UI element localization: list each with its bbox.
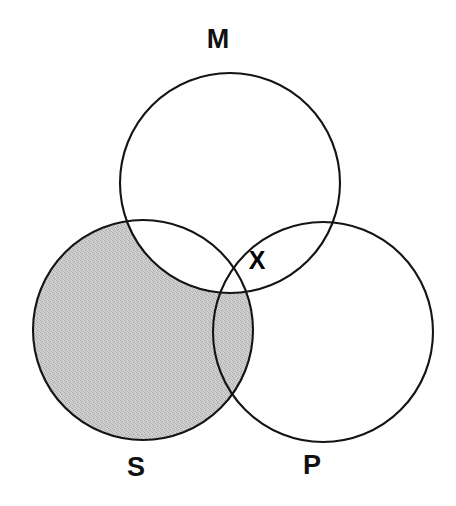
circle-label-m: M <box>207 24 230 54</box>
x-mark: X <box>249 246 266 274</box>
circle-label-p: P <box>303 450 321 480</box>
circle-label-s: S <box>127 452 145 482</box>
venn-diagram-canvas: M S P X <box>0 0 456 506</box>
shaded-region-s-minus-m <box>33 220 253 440</box>
venn-diagram-svg: M S P X <box>0 0 456 506</box>
